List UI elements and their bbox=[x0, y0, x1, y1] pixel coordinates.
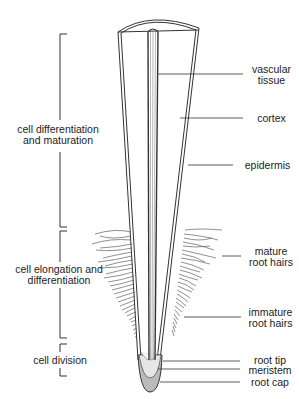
part-label-line: tissue bbox=[244, 75, 299, 86]
part-label-line: epidermis bbox=[236, 160, 299, 171]
vascular-tissue bbox=[148, 29, 158, 360]
label-immature-root-hairs: immature root hairs bbox=[242, 307, 299, 329]
zone-label-line: cell division bbox=[5, 355, 115, 366]
part-label-line: meristem bbox=[242, 365, 298, 376]
root-body bbox=[118, 20, 199, 360]
label-cortex: cortex bbox=[244, 113, 299, 124]
label-meristem: meristem bbox=[242, 365, 298, 376]
zone-label-differentiation-maturation: cell differentiation and maturation bbox=[2, 124, 114, 146]
label-mature-root-hairs: mature root hairs bbox=[243, 246, 299, 268]
part-label-line: root hairs bbox=[243, 257, 299, 268]
label-epidermis: epidermis bbox=[236, 160, 299, 171]
zone-label-cell-division: cell division bbox=[5, 355, 115, 366]
zone-brackets bbox=[60, 34, 67, 376]
leader-lines bbox=[158, 74, 243, 382]
zone-label-line: and maturation bbox=[2, 135, 114, 146]
label-root-cap: root cap bbox=[242, 377, 298, 388]
part-label-line: cortex bbox=[244, 113, 299, 124]
part-label-line: root hairs bbox=[242, 318, 299, 329]
zone-label-line: differentiation bbox=[0, 275, 118, 286]
root-diagram bbox=[0, 0, 299, 399]
part-label-line: root cap bbox=[242, 377, 298, 388]
label-vascular-tissue: vascular tissue bbox=[244, 64, 299, 86]
root-hairs-right bbox=[172, 229, 222, 336]
zone-label-elongation: cell elongation and differentiation bbox=[0, 264, 118, 286]
